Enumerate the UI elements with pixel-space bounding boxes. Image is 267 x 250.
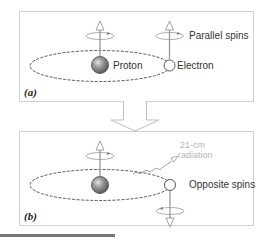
spin-down-arrow-icon <box>166 191 174 227</box>
proton-label: Proton <box>113 60 142 71</box>
panel-a-label: (a) <box>24 86 37 99</box>
down-arrow-icon <box>111 102 159 132</box>
panel-b: 21-cm radiation Opposite spins (b) <box>20 132 256 228</box>
hydrogen-21cm-diagram: Proton Electron Parallel spins (a) <box>0 0 267 250</box>
parallel-spins-label: Parallel spins <box>189 30 248 41</box>
panel-a-frame <box>20 12 254 102</box>
panel-a: Proton Electron Parallel spins (a) <box>20 12 254 102</box>
bottom-rule <box>0 234 115 237</box>
proton-sphere-icon <box>92 57 109 74</box>
panel-b-label: (b) <box>24 210 37 223</box>
electron-circle-icon <box>164 60 175 71</box>
radiation-label-line2: radiation <box>178 150 213 160</box>
electron-label: Electron <box>177 60 214 71</box>
opposite-spins-label: Opposite spins <box>189 179 255 190</box>
spin-up-arrow-icon <box>96 141 104 176</box>
radiation-label-line1: 21-cm <box>180 140 205 150</box>
electron-circle-icon <box>165 180 176 191</box>
wavy-radiation-arrow-icon <box>133 156 178 174</box>
proton-sphere-icon <box>92 177 109 194</box>
